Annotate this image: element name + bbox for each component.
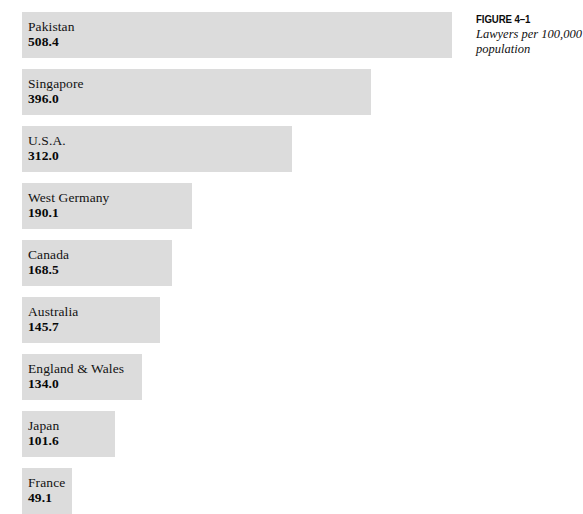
bar-value-label: 49.1 xyxy=(28,491,65,506)
bar-row: Japan 101.6 xyxy=(22,411,462,457)
bar-category-label: U.S.A. xyxy=(28,134,66,149)
bar-row: Australia 145.7 xyxy=(22,297,462,343)
bar-value-label: 168.5 xyxy=(28,263,69,278)
bar-label-group: U.S.A. 312.0 xyxy=(28,126,66,172)
bar-value-label: 134.0 xyxy=(28,377,124,392)
bar-category-label: Pakistan xyxy=(28,20,75,35)
bar-value-label: 101.6 xyxy=(28,434,59,449)
bar-category-label: England & Wales xyxy=(28,362,124,377)
bar-label-group: Singapore 396.0 xyxy=(28,69,84,115)
figure-caption: FIGURE 4–1 Lawyers per 100,000 populatio… xyxy=(476,13,583,57)
bar-value-label: 312.0 xyxy=(28,149,66,164)
bar-category-label: Australia xyxy=(28,305,78,320)
bar-category-label: Japan xyxy=(28,419,59,434)
bar-label-group: Japan 101.6 xyxy=(28,411,59,457)
figure-number-label: FIGURE 4–1 xyxy=(476,13,574,25)
bar-category-label: Canada xyxy=(28,248,69,263)
bar-label-group: France 49.1 xyxy=(28,468,65,514)
bar-row: Singapore 396.0 xyxy=(22,69,462,115)
bar-row: West Germany 190.1 xyxy=(22,183,462,229)
bar-value-label: 190.1 xyxy=(28,206,109,221)
bar-label-group: Pakistan 508.4 xyxy=(28,12,75,58)
bar-category-label: West Germany xyxy=(28,191,109,206)
bar-label-group: Canada 168.5 xyxy=(28,240,69,286)
bar-row: Pakistan 508.4 xyxy=(22,12,462,58)
bar-row: U.S.A. 312.0 xyxy=(22,126,462,172)
bar-row: Canada 168.5 xyxy=(22,240,462,286)
figure-caption-text: Lawyers per 100,000 population xyxy=(476,27,583,57)
bar-label-group: Australia 145.7 xyxy=(28,297,78,343)
bar-value-label: 508.4 xyxy=(28,35,75,50)
bar-row: France 49.1 xyxy=(22,468,462,514)
bar-category-label: France xyxy=(28,476,65,491)
bar-pakistan xyxy=(22,12,452,58)
bar-chart: Pakistan 508.4 Singapore 396.0 U.S.A. 31… xyxy=(22,12,462,420)
bar-row: England & Wales 134.0 xyxy=(22,354,462,400)
bar-category-label: Singapore xyxy=(28,77,84,92)
bar-value-label: 145.7 xyxy=(28,320,78,335)
bar-label-group: England & Wales 134.0 xyxy=(28,354,124,400)
bar-label-group: West Germany 190.1 xyxy=(28,183,109,229)
bar-value-label: 396.0 xyxy=(28,92,84,107)
